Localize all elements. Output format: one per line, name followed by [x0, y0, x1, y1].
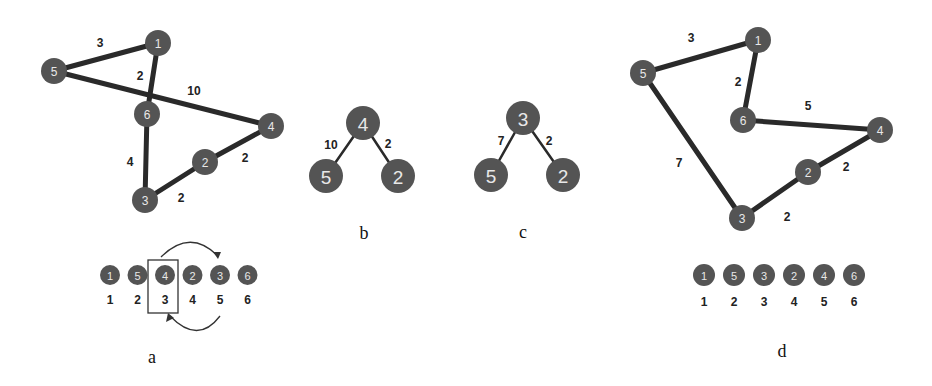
edge-weight-label: 2: [546, 134, 553, 148]
node-label: 5: [51, 65, 58, 79]
arrowhead-bottom-icon: [166, 313, 174, 322]
graph-node-d-5: 5: [630, 60, 656, 86]
graph-node-a-5: 5: [41, 58, 67, 84]
annotations-layer: [148, 242, 221, 330]
graph-node-a-2: 2: [192, 149, 218, 175]
edge-a-5-4: [54, 71, 271, 126]
graph-node-a-4: 4: [258, 113, 284, 139]
labels-layer: a b c d 321042212345610272325722123456: [97, 31, 858, 367]
node-label: 4: [877, 124, 884, 138]
node-label: 2: [393, 167, 404, 188]
graph-node-c-5: 5: [474, 158, 508, 192]
graph-node-a-1: 1: [145, 30, 171, 56]
node-label: 1: [755, 34, 762, 48]
edge-weight-label: 7: [676, 156, 683, 170]
edge-d-6-4: [743, 120, 880, 130]
panel-label-b: b: [360, 223, 369, 243]
node-label: 6: [740, 114, 747, 128]
node-label: 4: [358, 114, 369, 135]
array-index-label: 2: [134, 293, 141, 307]
node-label: 1: [155, 37, 162, 51]
array-cell-a-3: 4: [155, 265, 175, 285]
edge-d-5-3: [643, 73, 742, 218]
swap-arrow-top: [161, 242, 218, 257]
array-cell-d-6: 6: [843, 264, 865, 286]
array-index-label: 4: [189, 293, 196, 307]
node-label: 5: [321, 167, 332, 188]
array-index-label: 1: [701, 295, 708, 309]
graph-node-d-2: 2: [795, 159, 821, 185]
array-value: 6: [851, 270, 857, 282]
node-label: 3: [142, 194, 149, 208]
edge-weight-label: 3: [688, 31, 695, 45]
array-cell-a-4: 2: [183, 265, 203, 285]
node-label: 2: [558, 166, 569, 187]
node-label: 5: [640, 67, 647, 81]
array-cell-d-2: 5: [723, 264, 745, 286]
graph-node-d-6: 6: [730, 107, 756, 133]
array-index-label: 2: [731, 295, 738, 309]
node-label: 6: [144, 108, 151, 122]
edge-a-5-1: [54, 43, 158, 71]
array-value: 1: [107, 270, 113, 282]
arrowhead-top-icon: [213, 252, 221, 259]
graph-node-d-3: 3: [729, 205, 755, 231]
graph-node-b-5: 5: [309, 159, 343, 193]
edge-weight-label: 2: [784, 210, 791, 224]
array-index-label: 3: [162, 293, 169, 307]
edge-weight-label: 7: [498, 134, 505, 148]
array-index-label: 4: [791, 295, 798, 309]
array-cell-a-5: 3: [210, 265, 230, 285]
node-label: 2: [805, 166, 812, 180]
graph-node-a-3: 3: [132, 187, 158, 213]
edge-weight-label: 2: [178, 191, 185, 205]
array-cell-d-5: 4: [813, 264, 835, 286]
array-value: 2: [791, 270, 797, 282]
array-value: 4: [821, 270, 827, 282]
edge-weight-label: 5: [805, 99, 812, 113]
array-value: 4: [162, 270, 168, 282]
edge-weight-label: 3: [97, 36, 104, 50]
edge-weight-label: 10: [324, 138, 338, 152]
array-cell-d-3: 3: [753, 264, 775, 286]
edge-weight-label: 2: [385, 137, 392, 151]
node-label: 5: [486, 166, 497, 187]
array-value: 2: [189, 270, 195, 282]
node-label: 2: [202, 156, 209, 170]
array-index-label: 5: [821, 295, 828, 309]
array-cell-d-1: 1: [693, 264, 715, 286]
array-value: 5: [731, 270, 737, 282]
panel-label-a: a: [148, 347, 156, 367]
graph-node-a-6: 6: [134, 101, 160, 127]
edge-weight-label: 4: [127, 155, 134, 169]
array-value: 5: [134, 270, 140, 282]
array-cell-a-1: 1: [100, 265, 120, 285]
figure-canvas: 156423154236452352156423153246 a b c d 3…: [0, 0, 932, 386]
array-cell-a-6: 6: [238, 265, 258, 285]
edge-weight-label: 10: [187, 84, 201, 98]
graph-node-b-2: 2: [381, 159, 415, 193]
edge-d-5-1: [643, 40, 758, 73]
array-value: 1: [701, 270, 707, 282]
panel-label-d: d: [778, 341, 787, 361]
graph-node-b-4: 4: [346, 106, 380, 140]
node-label: 3: [739, 212, 746, 226]
edge-weight-label: 2: [735, 75, 742, 89]
array-index-label: 5: [217, 293, 224, 307]
array-index-label: 3: [761, 295, 768, 309]
panel-label-c: c: [519, 222, 527, 242]
array-value: 3: [761, 270, 767, 282]
graph-node-c-3: 3: [506, 101, 540, 135]
graph-node-d-1: 1: [745, 27, 771, 53]
array-index-label: 6: [244, 293, 251, 307]
edge-weight-label: 2: [843, 160, 850, 174]
edge-weight-label: 2: [242, 151, 249, 165]
nodes-layer: 156423154236452352156423153246: [41, 27, 893, 286]
array-index-label: 1: [107, 293, 114, 307]
node-label: 3: [518, 109, 529, 130]
graph-node-d-4: 4: [867, 117, 893, 143]
edge-weight-label: 2: [137, 69, 144, 83]
array-value: 6: [244, 270, 250, 282]
array-cell-a-2: 5: [128, 265, 148, 285]
swap-arrow-bottom: [170, 316, 220, 331]
